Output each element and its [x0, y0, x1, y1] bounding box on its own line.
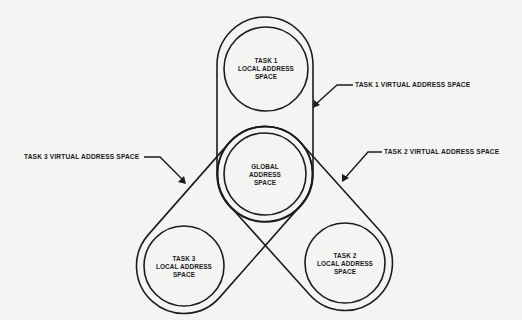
task1-label-line-3: SPACE — [226, 73, 306, 81]
task1-virtual-space-label: TASK 1 VIRTUAL ADDRESS SPACE — [355, 82, 470, 89]
global-label-line-2: ADDRESS — [225, 171, 305, 179]
task2-virtual-space-label: TASK 2 VIRTUAL ADDRESS SPACE — [384, 149, 499, 156]
task2-label-line-1: TASK 2 — [305, 252, 385, 260]
global-label-line-1: GLOBAL — [225, 163, 305, 171]
task3-label-line-1: TASK 3 — [144, 255, 224, 263]
task3-local-space-label: TASK 3 LOCAL ADDRESS SPACE — [144, 255, 224, 279]
task3-label-line-3: SPACE — [144, 271, 224, 279]
task3-virtual-space-label: TASK 3 VIRTUAL ADDRESS SPACE — [24, 154, 139, 161]
task1-label-line-1: TASK 1 — [226, 57, 306, 65]
task1-local-space-label: TASK 1 LOCAL ADDRESS SPACE — [226, 57, 306, 81]
global-label-line-3: SPACE — [225, 179, 305, 187]
task1-virtual-space-outline — [217, 17, 313, 222]
task2-local-space-label: TASK 2 LOCAL ADDRESS SPACE — [305, 252, 385, 276]
task3-label-line-2: LOCAL ADDRESS — [144, 263, 224, 271]
task2-leader-arrow — [342, 152, 382, 182]
task1-label-line-2: LOCAL ADDRESS — [226, 65, 306, 73]
task2-label-line-3: SPACE — [305, 268, 385, 276]
task1-leader-arrow — [313, 85, 353, 108]
task3-leader-arrow — [144, 157, 186, 184]
global-space-label: GLOBAL ADDRESS SPACE — [225, 163, 305, 187]
task3-virtual-space-outline — [137, 126, 313, 313]
task2-label-line-2: LOCAL ADDRESS — [305, 260, 385, 268]
